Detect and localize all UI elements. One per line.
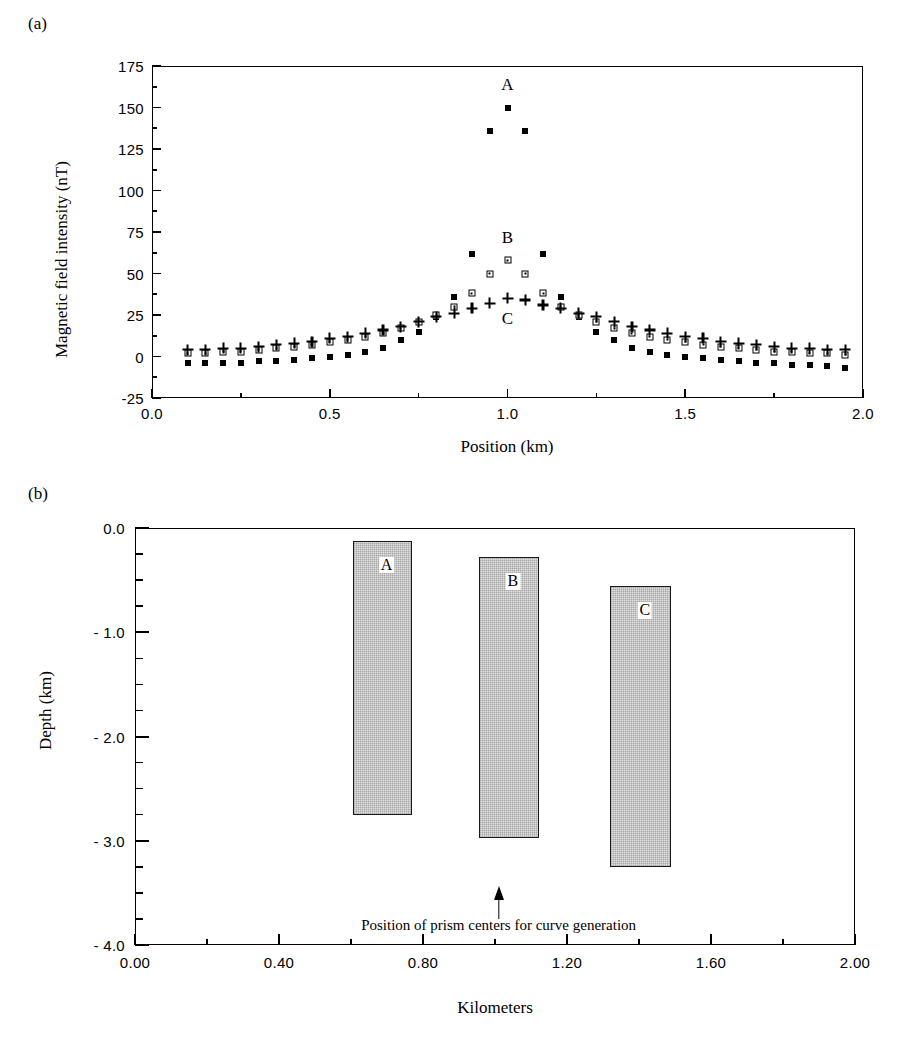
- y-tick-minor: [152, 127, 157, 129]
- data-point-A: [824, 363, 830, 369]
- y-tick-minor: [135, 658, 143, 660]
- data-point-A: [398, 337, 404, 343]
- y-tick-minor: [135, 684, 143, 686]
- prism-C: [610, 586, 671, 866]
- y-tick-label: 75: [96, 224, 144, 241]
- data-point-A: [185, 360, 191, 366]
- data-point-C: [431, 311, 442, 322]
- y-tick-minor: [135, 918, 143, 920]
- data-point-C: [395, 321, 406, 332]
- annotation-arrow-head: [494, 886, 504, 900]
- x-tick-label: 2.00: [840, 954, 870, 971]
- data-point-A: [238, 360, 244, 366]
- panel-b-y-axis-title: Depth (km): [36, 671, 56, 750]
- data-point-A: [771, 360, 777, 366]
- x-tick-minor: [782, 939, 784, 945]
- data-point-C: [324, 333, 335, 344]
- data-point-A: [345, 352, 351, 358]
- series-label-B: B: [502, 228, 513, 248]
- y-tick-minor: [152, 335, 157, 337]
- y-tick-major: [152, 314, 161, 316]
- y-tick-major: [152, 148, 161, 150]
- data-point-A: [291, 357, 297, 363]
- y-tick-minor: [135, 553, 143, 555]
- x-tick-label: 2.0: [852, 405, 874, 422]
- data-point-C: [360, 328, 371, 339]
- figure-root: (a) Magnetic field intensity (nT) 0.00.5…: [0, 0, 900, 1056]
- data-point-B: [504, 257, 511, 264]
- y-tick-label: - 1.0: [69, 624, 125, 641]
- data-point-C: [502, 293, 513, 304]
- data-point-A: [380, 345, 386, 351]
- data-point-B: [468, 290, 475, 297]
- data-point-A: [842, 365, 848, 371]
- series-label-A: A: [501, 75, 513, 95]
- data-point-A: [469, 251, 475, 257]
- data-point-A: [220, 360, 226, 366]
- y-tick-label: 0: [96, 348, 144, 365]
- data-point-A: [451, 294, 457, 300]
- data-point-C: [751, 339, 762, 350]
- data-point-A: [611, 337, 617, 343]
- data-point-A: [647, 349, 653, 355]
- panel-b-x-axis-title: Kilometers: [457, 998, 533, 1018]
- y-tick-major: [152, 397, 161, 399]
- y-tick-minor: [152, 376, 157, 378]
- y-tick-minor: [152, 210, 157, 212]
- y-tick-major: [135, 944, 149, 946]
- y-tick-minor: [152, 293, 157, 295]
- x-tick-label: 0.80: [408, 954, 438, 971]
- y-tick-label: 25: [96, 307, 144, 324]
- x-tick-major: [278, 934, 280, 945]
- data-point-C: [804, 343, 815, 354]
- y-tick-label: 50: [96, 265, 144, 282]
- data-point-C: [715, 336, 726, 347]
- x-tick-major: [684, 389, 686, 398]
- data-point-C: [822, 344, 833, 355]
- data-point-B: [522, 270, 529, 277]
- data-point-A: [327, 354, 333, 360]
- x-tick-minor: [773, 393, 775, 398]
- y-tick-minor: [135, 788, 143, 790]
- y-tick-major: [135, 840, 149, 842]
- y-tick-label: 100: [96, 182, 144, 199]
- data-point-C: [840, 344, 851, 355]
- y-tick-minor: [152, 86, 157, 88]
- data-point-C: [466, 303, 477, 314]
- y-tick-major: [152, 356, 161, 358]
- panel-a: (a) Magnetic field intensity (nT) 0.00.5…: [0, 0, 900, 450]
- data-point-C: [182, 344, 193, 355]
- data-point-B: [540, 290, 547, 297]
- data-point-C: [555, 303, 566, 314]
- data-point-C: [342, 331, 353, 342]
- x-tick-minor: [350, 939, 352, 945]
- x-tick-label: 1.0: [497, 405, 519, 422]
- annotation-text: Position of prism centers for curve gene…: [361, 917, 636, 934]
- panel-b: (b) Depth (km) 0.000.400.801.201.602.000…: [0, 450, 900, 1056]
- x-tick-major: [329, 389, 331, 398]
- data-point-C: [253, 341, 264, 352]
- data-point-C: [289, 338, 300, 349]
- data-point-C: [200, 344, 211, 355]
- x-tick-minor: [418, 393, 420, 398]
- annotation-arrow-shaft: [498, 898, 499, 919]
- data-point-A: [416, 329, 422, 335]
- data-point-A: [682, 354, 688, 360]
- data-point-C: [413, 316, 424, 327]
- data-point-A: [664, 352, 670, 358]
- y-tick-major: [135, 631, 149, 633]
- x-tick-label: 1.5: [674, 405, 696, 422]
- y-tick-label: - 4.0: [69, 937, 125, 954]
- x-tick-major: [710, 934, 712, 945]
- prism-label-C: C: [637, 602, 652, 619]
- x-tick-label: 0.0: [141, 405, 163, 422]
- y-tick-minor: [135, 866, 143, 868]
- y-tick-label: -25: [96, 390, 144, 407]
- data-point-A: [309, 355, 315, 361]
- prism-A: [353, 541, 412, 815]
- data-point-A: [593, 329, 599, 335]
- y-tick-minor: [135, 892, 143, 894]
- x-tick-label: 1.60: [696, 954, 726, 971]
- y-tick-label: - 2.0: [69, 728, 125, 745]
- data-point-C: [235, 343, 246, 354]
